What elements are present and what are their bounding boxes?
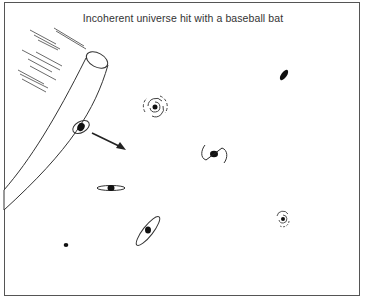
- galaxy-edge-on: [97, 185, 125, 191]
- baseball-bat: [4, 48, 110, 210]
- galaxy-dot: [64, 243, 69, 247]
- galaxy-spiral-1: [143, 96, 167, 117]
- galaxy-tilted-disk: [133, 214, 163, 249]
- illustration: [0, 0, 366, 300]
- galaxy-spiral-2: [277, 211, 289, 227]
- galaxy-barred: [202, 145, 227, 163]
- motion-arrow-icon: [92, 133, 126, 150]
- galaxy-ellipse-1: [278, 68, 289, 81]
